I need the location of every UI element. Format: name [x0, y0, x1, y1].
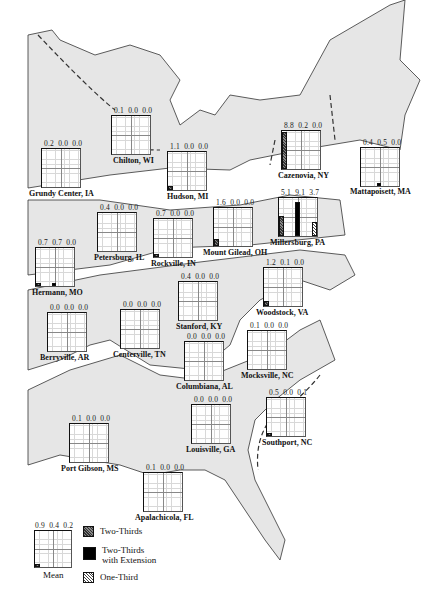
site-values: 0.4 0.0 0.0 [181, 272, 219, 281]
bar-chart [191, 404, 231, 444]
bar-chart [178, 281, 218, 321]
site-values: 0.4 0.5 0.0 [363, 138, 401, 147]
site-values: 0.4 0.0 0.0 [100, 203, 138, 212]
two-thirds-extension-swatch-icon [83, 547, 96, 560]
site-label: Hermann, MO [32, 288, 83, 297]
bar-one-third [312, 222, 317, 236]
site-values: 0.5 0.0 0.1 [269, 388, 307, 397]
bar-chart [167, 151, 207, 191]
legend-label: Two-Thirds [100, 526, 142, 536]
site-values: 0.1 0.0 0.0 [146, 463, 184, 472]
site-label: Port Gibson, MS [61, 464, 119, 473]
bar-two-thirds [35, 564, 40, 567]
legend-label-block: Two-Thirds with Extension [102, 545, 156, 565]
site-values: 1.6 0.0 0.0 [216, 198, 254, 207]
bar-chart [143, 472, 183, 512]
bar-chart [111, 115, 151, 155]
bar-two-thirds [154, 254, 159, 257]
site-label: Grundy Center, IA [29, 189, 94, 198]
site-values: 5.1 9.1 3.7 [281, 188, 319, 197]
legend-two-thirds: Two-Thirds [83, 526, 142, 537]
legend-label: One-Third [100, 572, 138, 582]
mean-label: Mean [43, 570, 64, 580]
bar-chart [47, 312, 87, 352]
bar-chart [34, 530, 72, 568]
bar-chart [35, 247, 75, 287]
site-label: Southport, NC [262, 438, 312, 447]
bar-chart [153, 218, 193, 258]
site-label: Apalachicola, FL [135, 513, 194, 522]
bar-two-thirds-extension [52, 283, 56, 286]
legend-label: with Extension [102, 555, 156, 565]
bar-chart [97, 212, 137, 252]
site-values: 0.0 0.0 0.0 [123, 300, 161, 309]
bar-chart [281, 130, 321, 170]
site-values: 0.1 0.0 0.0 [72, 414, 110, 423]
site-label: Columbiana, AL [176, 382, 233, 391]
bar-chart [120, 309, 160, 349]
one-third-swatch-icon [83, 572, 94, 583]
bar-chart [41, 148, 81, 188]
site-label: Millersburg, PA [270, 238, 325, 247]
bar-two-thirds [214, 239, 219, 246]
legend-two-thirds-extension: Two-Thirds with Extension [83, 545, 156, 565]
bar-chart [263, 267, 303, 307]
legend-label: Two-Thirds [102, 545, 156, 555]
bar-chart [360, 147, 400, 187]
bar-two-thirds [279, 216, 284, 236]
site-label: Cazenovia, NY [278, 171, 329, 180]
bar-chart [266, 397, 306, 437]
bar-chart [278, 197, 318, 237]
bar-two-thirds [267, 433, 272, 436]
bar-two-thirds [264, 301, 269, 306]
site-values: 1.2 0.1 0.0 [266, 258, 304, 267]
site-label: Louisville, GA [186, 445, 235, 454]
site-label: Stanford, KY [176, 322, 222, 331]
bar-two-thirds [36, 283, 41, 286]
two-thirds-swatch-icon [83, 526, 94, 537]
bar-two-thirds-extension [377, 183, 381, 186]
site-label: Petersburg, IL [94, 253, 144, 262]
site-label: Chilton, WI [113, 156, 154, 165]
site-label: Rockville, IN [151, 259, 196, 268]
site-values: 1.1 0.0 0.0 [170, 142, 208, 151]
site-values: 0.7 0.0 0.0 [156, 209, 194, 218]
legend-one-third: One-Third [83, 572, 138, 583]
site-label: Mattapoisett, MA [350, 187, 411, 196]
site-label: Hudson, MI [167, 192, 208, 201]
site-values: 0.0 0.0 0.0 [50, 303, 88, 312]
site-label: Mocksville, NC [241, 371, 293, 380]
site-values: 0.1 0.0 0.0 [250, 321, 288, 330]
site-values: 8.8 0.2 0.0 [284, 121, 322, 130]
bar-chart [247, 330, 287, 370]
bar-two-thirds [168, 186, 173, 190]
site-values: 0.1 0.0 0.0 [114, 106, 152, 115]
bar-chart [213, 207, 253, 247]
site-label: Centerville, TN [113, 350, 166, 359]
bar-two-thirds [282, 132, 287, 169]
bar-chart [184, 341, 224, 381]
site-values: 0.7 0.7 0.0 [38, 238, 76, 247]
bar-two-thirds-extension [295, 202, 300, 236]
site-values: 0.2 0.0 0.0 [44, 139, 82, 148]
bar-chart [69, 423, 109, 463]
site-values: 0.0 0.0 0.0 [194, 395, 232, 404]
site-values: 0.0 0.0 0.0 [187, 332, 225, 341]
site-label: Woodstock, VA [256, 308, 308, 317]
site-label: Berryville, AR [40, 353, 89, 362]
site-values: 0.9 0.4 0.2 [35, 521, 73, 530]
site-label: Mount Gilead, OH [203, 248, 267, 257]
